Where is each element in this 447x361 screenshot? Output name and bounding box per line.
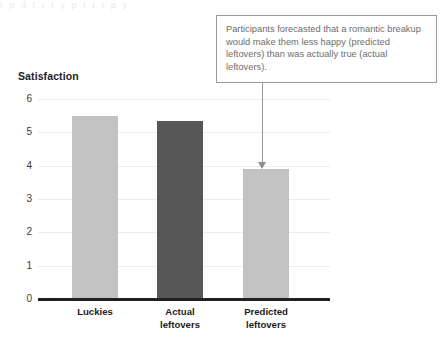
scan-artifact-text: t p d t t t y p t t t p y <box>0 0 447 10</box>
y-axis-tick-label: 0 <box>18 293 32 304</box>
x-axis-category-label: Luckies <box>49 306 141 319</box>
y-axis-tick-label: 2 <box>18 226 32 237</box>
bar <box>157 121 203 299</box>
annotation-callout-text: Participants forecasted that a romantic … <box>226 23 429 73</box>
y-axis-tick-label: 5 <box>18 126 32 137</box>
y-axis-tick-label: 3 <box>18 193 32 204</box>
x-axis-category-label: Actualleftovers <box>134 306 226 331</box>
annotation-callout: Participants forecasted that a romantic … <box>216 15 437 83</box>
plot-area: 0123456 <box>38 99 330 299</box>
y-axis-title: Satisfaction <box>18 70 79 82</box>
bar <box>243 169 289 299</box>
y-axis-tick-label: 6 <box>18 93 32 104</box>
gridline <box>38 99 330 100</box>
x-axis-line <box>38 298 330 301</box>
y-axis-tick-label: 1 <box>18 260 32 271</box>
bar-chart-figure: t p d t t t y p t t t p y Satisfaction 0… <box>0 0 447 361</box>
callout-leader-line <box>262 83 263 163</box>
y-axis-tick-label: 4 <box>18 160 32 171</box>
x-axis-category-label: Predictedleftovers <box>220 306 312 331</box>
bar <box>72 116 118 299</box>
callout-arrow-icon <box>258 162 266 169</box>
